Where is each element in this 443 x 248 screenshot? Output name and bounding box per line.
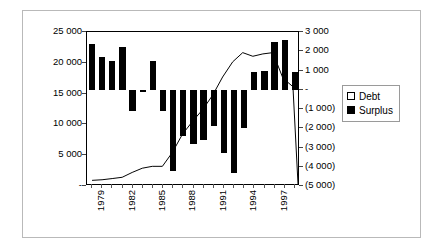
x-tick-label: 1985 bbox=[157, 190, 167, 211]
y-right-tick-label: 2 000 bbox=[305, 45, 361, 55]
y-right-tick-label: (3 000) bbox=[305, 142, 361, 152]
bar-surplus bbox=[271, 42, 277, 90]
x-tick-label: 1979 bbox=[96, 190, 106, 211]
bar-surplus bbox=[211, 90, 217, 127]
bar-surplus bbox=[261, 71, 267, 90]
bar-surplus bbox=[109, 61, 115, 90]
plot-inner bbox=[87, 32, 298, 184]
x-axis: 1979198219851988199119941997 bbox=[86, 188, 299, 240]
legend-label-surplus: Surplus bbox=[359, 105, 393, 116]
x-tick-mark bbox=[182, 184, 183, 188]
chart-root: 25 00020 00015 00010 0005 000- 3 0002 00… bbox=[0, 0, 443, 248]
y-right-tick-mark bbox=[299, 185, 303, 186]
y-left-tick-label: 10 000 bbox=[26, 118, 82, 128]
bar-surplus bbox=[119, 47, 125, 89]
x-tick-label: 1982 bbox=[127, 190, 137, 211]
y-left-tick-label: 15 000 bbox=[26, 88, 82, 98]
y-left-tick-label: 25 000 bbox=[26, 26, 82, 36]
bar-surplus bbox=[282, 40, 288, 90]
legend-item-debt[interactable]: Debt bbox=[347, 89, 393, 103]
legend-label-debt: Debt bbox=[359, 91, 380, 102]
bar-surplus bbox=[89, 44, 95, 90]
y-right-tick-mark bbox=[299, 31, 303, 32]
y-right-tick-mark bbox=[299, 70, 303, 71]
x-tick-mark bbox=[152, 184, 153, 188]
x-tick-mark bbox=[253, 184, 254, 188]
bar-surplus bbox=[160, 90, 166, 111]
x-tick-mark bbox=[274, 184, 275, 188]
y-right-tick-label: (4 000) bbox=[305, 161, 361, 171]
chart-legend: Debt Surplus bbox=[342, 85, 400, 122]
hollow-square-icon bbox=[347, 92, 355, 100]
bar-surplus bbox=[221, 90, 227, 154]
x-tick-mark bbox=[213, 184, 214, 188]
bar-surplus bbox=[231, 90, 237, 173]
bar-surplus bbox=[241, 90, 247, 129]
x-tick-mark bbox=[101, 184, 102, 188]
x-tick-mark bbox=[172, 184, 173, 188]
x-tick-mark bbox=[203, 184, 204, 188]
x-tick-mark bbox=[142, 184, 143, 188]
x-tick-mark bbox=[132, 184, 133, 188]
y-right-tick-label: (5 000) bbox=[305, 180, 361, 190]
y-left-tick-mark bbox=[82, 185, 86, 186]
x-tick-mark bbox=[162, 184, 163, 188]
y-right-tick-mark bbox=[299, 147, 303, 148]
x-tick-mark bbox=[233, 184, 234, 188]
bar-surplus bbox=[180, 90, 186, 136]
y-axis-left: 25 00020 00015 00010 0005 000- bbox=[22, 31, 82, 185]
y-right-tick-label: 1 000 bbox=[305, 65, 361, 75]
y-right-tick-mark bbox=[299, 89, 303, 90]
y-left-tick-label: 20 000 bbox=[26, 57, 82, 67]
x-tick-mark bbox=[193, 184, 194, 188]
y-right-tick-mark bbox=[299, 127, 303, 128]
y-right-tick-label: (2 000) bbox=[305, 122, 361, 132]
y-right-tick-mark bbox=[299, 108, 303, 109]
x-tick-mark bbox=[111, 184, 112, 188]
x-tick-mark bbox=[284, 184, 285, 188]
bar-surplus bbox=[292, 72, 298, 89]
bar-surplus bbox=[200, 90, 206, 140]
plot-area bbox=[86, 31, 299, 185]
x-tick-mark bbox=[294, 184, 295, 188]
x-tick-label: 1997 bbox=[279, 190, 289, 211]
x-tick-mark bbox=[223, 184, 224, 188]
y-right-tick-mark bbox=[299, 50, 303, 51]
y-right-tick-label: 3 000 bbox=[305, 26, 361, 36]
bar-surplus bbox=[150, 61, 156, 90]
bar-surplus bbox=[129, 90, 135, 111]
x-tick-mark bbox=[122, 184, 123, 188]
bar-surplus bbox=[251, 72, 257, 89]
y-left-tick-label: 5 000 bbox=[26, 149, 82, 159]
x-tick-label: 1991 bbox=[218, 190, 228, 211]
x-tick-label: 1994 bbox=[248, 190, 258, 211]
y-right-tick-mark bbox=[299, 166, 303, 167]
bar-surplus bbox=[170, 90, 176, 171]
y-left-tick-label: - bbox=[26, 180, 82, 190]
x-tick-label: 1988 bbox=[187, 190, 197, 211]
bar-surplus bbox=[99, 57, 105, 90]
filled-square-icon bbox=[347, 106, 355, 114]
x-tick-mark bbox=[243, 184, 244, 188]
x-tick-mark bbox=[264, 184, 265, 188]
legend-item-surplus[interactable]: Surplus bbox=[347, 103, 393, 117]
bar-surplus bbox=[140, 90, 146, 92]
bar-surplus bbox=[190, 90, 196, 144]
x-tick-mark bbox=[91, 184, 92, 188]
